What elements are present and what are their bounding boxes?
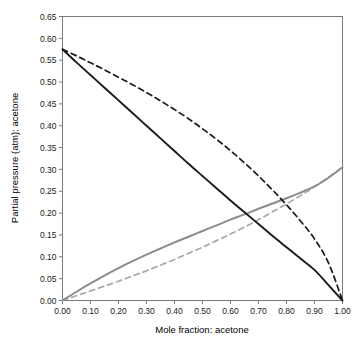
y-tick-label-7: 0.35	[40, 143, 57, 153]
y-tick-label-1: 0.05	[40, 274, 57, 284]
y-tick-label-8: 0.40	[40, 121, 57, 131]
y-tick-label-0: 0.00	[40, 296, 57, 306]
x-tick-label-0: 0.00	[54, 306, 71, 316]
y-tick-label-4: 0.20	[40, 208, 57, 218]
x-tick-label-6: 0.60	[222, 306, 239, 316]
x-axis-title: Mole fraction: acetone	[155, 324, 248, 335]
x-tick-label-10: 1.00	[334, 306, 351, 316]
x-tick-label-2: 0.20	[110, 306, 127, 316]
y-tick-label-6: 0.30	[40, 165, 57, 175]
x-axis-tick-labels: 0.000.100.200.300.400.500.600.700.800.90…	[54, 306, 351, 316]
y-tick-label-11: 0.55	[40, 55, 57, 65]
x-tick-label-4: 0.40	[166, 306, 183, 316]
x-tick-label-3: 0.30	[138, 306, 155, 316]
y-axis-title: Partial pressure (atm): acetone	[9, 93, 20, 223]
y-tick-label-2: 0.10	[40, 252, 57, 262]
x-tick-label-8: 0.80	[278, 306, 295, 316]
y-tick-label-12: 0.60	[40, 34, 57, 44]
y-tick-label-3: 0.15	[40, 230, 57, 240]
y-tick-label-9: 0.45	[40, 99, 57, 109]
chart-container: 0.000.100.200.300.400.500.600.700.800.90…	[0, 0, 359, 345]
y-tick-label-10: 0.50	[40, 77, 57, 87]
y-tick-label-5: 0.25	[40, 186, 57, 196]
x-tick-label-1: 0.10	[82, 306, 99, 316]
y-tick-label-13: 0.65	[40, 12, 57, 22]
x-tick-label-7: 0.70	[250, 306, 267, 316]
x-tick-label-9: 0.90	[306, 306, 323, 316]
x-tick-label-5: 0.50	[194, 306, 211, 316]
partial-pressure-line-chart: 0.000.100.200.300.400.500.600.700.800.90…	[0, 0, 359, 345]
